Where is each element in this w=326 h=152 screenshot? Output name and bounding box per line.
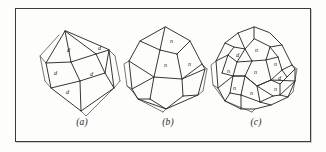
rhombic-dodecahedron-svg: d d d d d bbox=[34, 19, 130, 119]
hidden-edges-a bbox=[40, 35, 120, 116]
pentagonal-dodecahedron-svg: n n n bbox=[120, 19, 216, 119]
figure-frame: d d d d d (a) bbox=[15, 8, 311, 142]
crystal-drawing-b: n n n bbox=[120, 19, 216, 119]
figure-panel-a: d d d d d (a) bbox=[34, 19, 130, 141]
caption-c: (c) bbox=[208, 117, 304, 127]
face-label-c-8: n bbox=[250, 89, 253, 96]
face-label-a-4: d bbox=[90, 70, 94, 77]
face-label-c-1: d bbox=[236, 51, 240, 58]
face-label-b-3: n bbox=[188, 60, 191, 67]
face-label-c-3: n bbox=[227, 67, 230, 74]
caption-b: (b) bbox=[120, 117, 216, 127]
figure-panel-c: d n n n n d n n n (c) bbox=[208, 19, 304, 141]
crystal-drawing-c: d n n n n d n n n bbox=[208, 19, 304, 119]
face-label-b-1: n bbox=[170, 37, 173, 44]
crystal-drawing-a: d d d d d bbox=[34, 19, 130, 119]
visible-edges-b bbox=[129, 27, 205, 109]
face-label-c-7: n bbox=[233, 84, 236, 91]
figure-panel-b: n n n (b) bbox=[120, 19, 216, 141]
face-label-a-2: d bbox=[54, 69, 58, 76]
face-label-b-2: n bbox=[164, 61, 167, 68]
face-label-a-5: d bbox=[98, 44, 102, 51]
face-label-c-5: n bbox=[274, 60, 277, 67]
face-label-c-6: d bbox=[278, 74, 282, 81]
face-label-c-4: n bbox=[254, 68, 257, 75]
face-label-a-1: d bbox=[67, 46, 71, 53]
face-label-a-3: d bbox=[66, 88, 70, 95]
face-label-c-9: n bbox=[274, 85, 277, 92]
figure-page: d d d d d (a) bbox=[0, 0, 326, 152]
face-label-c-2: n bbox=[255, 46, 258, 53]
caption-a: (a) bbox=[34, 117, 130, 127]
combination-form-svg: d n n n n d n n n bbox=[208, 19, 304, 119]
